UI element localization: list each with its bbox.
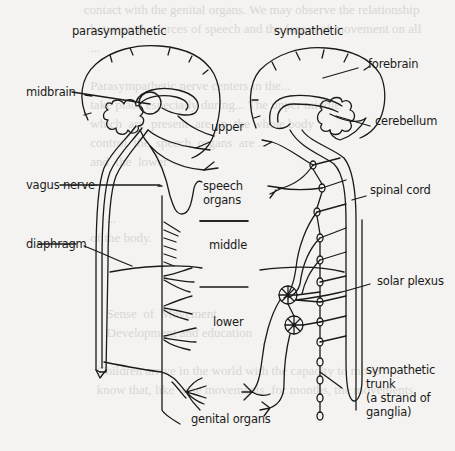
label-midbrain: midbrain (26, 86, 76, 99)
label-forebrain: forebrain (368, 58, 418, 71)
label-vagus-nerve: vagus nerve (26, 179, 95, 192)
label-genital-organs: genital organs (191, 413, 271, 426)
label-lower: lower (213, 316, 243, 329)
heading-parasympathetic: parasympathetic (72, 25, 166, 38)
label-speech-organs-line1: speech (203, 180, 243, 193)
label-sympathetic-trunk-line2: trunk (366, 378, 395, 391)
parasympathetic-figure (38, 46, 248, 424)
label-spinal-cord: spinal cord (370, 184, 431, 197)
label-speech-organs-line2: organs (203, 194, 241, 207)
label-sympathetic-trunk-line1: sympathetic (366, 364, 435, 377)
label-sympathetic-trunk-line4: ganglia) (366, 406, 411, 419)
label-middle: middle (209, 239, 247, 252)
label-sympathetic-trunk-line3: (a strand of (366, 392, 430, 405)
sympathetic-figure (200, 48, 385, 420)
heading-sympathetic: sympathetic (274, 25, 343, 38)
label-cerebellum: cerebellum (375, 115, 437, 128)
label-solar-plexus: solar plexus (377, 275, 444, 288)
label-diaphragm: diaphragm (26, 238, 87, 251)
label-upper: upper (211, 121, 244, 134)
